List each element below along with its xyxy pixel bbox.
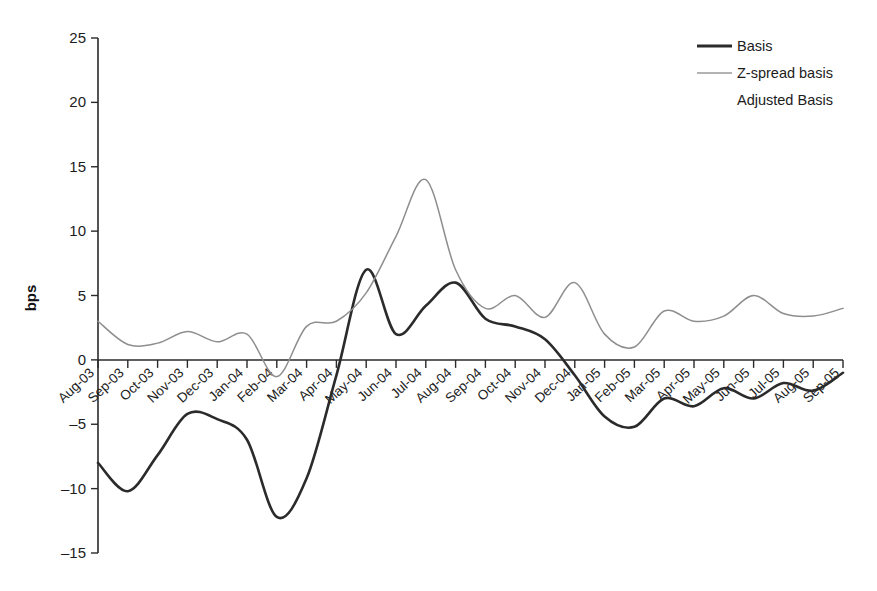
y-axis-tick-labels: 2520151050–5–10–15 bbox=[61, 29, 86, 561]
legend-label: Z-spread basis bbox=[737, 65, 833, 81]
y-tick-label: 5 bbox=[78, 287, 86, 304]
y-tick-label: –5 bbox=[69, 415, 86, 432]
y-tick-label: 15 bbox=[69, 158, 86, 175]
chart-container: bps 2520151050–5–10–15 Aug-03Sep-03Oct-0… bbox=[0, 0, 877, 591]
x-axis-tick-labels: Aug-03Sep-03Oct-03Nov-03Dec-03Jan-04Feb-… bbox=[55, 365, 842, 407]
series-line-z-spread-basis bbox=[98, 179, 843, 377]
legend-label: Basis bbox=[737, 38, 772, 54]
legend-label: Adjusted Basis bbox=[737, 92, 833, 108]
y-tick-label: 25 bbox=[69, 29, 86, 46]
chart-legend: BasisZ-spread basisAdjusted Basis bbox=[697, 38, 833, 108]
y-tick-label: 20 bbox=[69, 93, 86, 110]
y-tick-label: 0 bbox=[78, 351, 86, 368]
y-tick-label: 10 bbox=[69, 222, 86, 239]
y-axis-title: bps bbox=[22, 285, 39, 312]
x-tick-label: Jun-04 bbox=[355, 365, 396, 404]
x-axis-ticks bbox=[98, 360, 843, 368]
y-axis-ticks bbox=[91, 38, 98, 553]
y-tick-label: –10 bbox=[61, 480, 86, 497]
y-tick-label: –15 bbox=[61, 544, 86, 561]
series-layer bbox=[98, 179, 843, 518]
line-chart: bps 2520151050–5–10–15 Aug-03Sep-03Oct-0… bbox=[0, 0, 877, 591]
